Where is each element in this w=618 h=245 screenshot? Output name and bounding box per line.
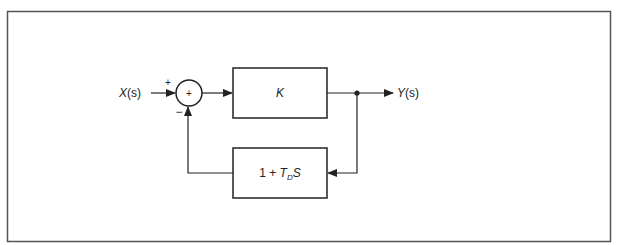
feedback-line-right [328,93,357,173]
forward-block-label: K [276,86,285,100]
block-diagram: X(s) + + − K Y(s) 1 + TDS [0,0,618,245]
feedback-line-left [188,107,233,173]
figure-frame [8,12,611,242]
summing-center-sign: + [186,88,192,99]
feedback-block-label: 1 + TDS [259,166,301,182]
minus-sign-feedback: − [175,105,182,119]
input-label: X(s) [118,86,141,100]
summing-junction: + + − [165,77,202,119]
forward-block: K [233,68,327,118]
plus-sign-input: + [165,77,171,88]
feedback-block: 1 + TDS [233,148,327,198]
output-label: Y(s) [397,86,419,100]
